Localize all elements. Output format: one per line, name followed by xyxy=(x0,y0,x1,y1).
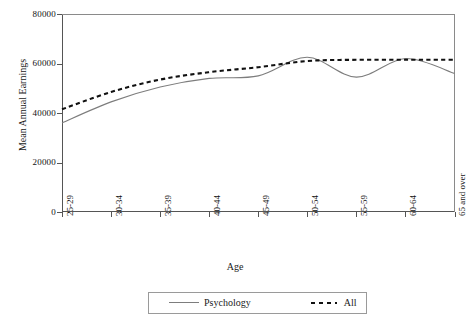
legend-swatch-dashed-icon xyxy=(309,299,339,307)
legend-label-all: All xyxy=(344,298,357,308)
x-axis-tick-label: 60-64 xyxy=(409,195,418,216)
x-axis-tick-mark xyxy=(455,212,456,217)
y-axis-tick-mark xyxy=(57,163,62,164)
x-axis-tick-label: 30-34 xyxy=(115,195,124,216)
x-axis-tick-label: 55-59 xyxy=(360,195,369,216)
y-axis-tick-mark xyxy=(57,14,62,15)
x-axis-tick-mark xyxy=(209,212,210,217)
y-axis-tick-label: 80000 xyxy=(0,10,56,19)
y-axis-tick-mark xyxy=(57,64,62,65)
y-axis-tick-label: 40000 xyxy=(0,109,56,118)
x-axis-tick-label: 65 and over xyxy=(458,174,467,217)
x-axis-tick-label: 35-39 xyxy=(164,195,173,216)
plot-right-border xyxy=(454,14,455,212)
y-axis-tick-mark xyxy=(57,113,62,114)
x-axis-tick-label: 25-29 xyxy=(66,195,75,216)
x-axis-tick-mark xyxy=(307,212,308,217)
x-axis-tick-mark xyxy=(258,212,259,217)
x-axis-tick-mark xyxy=(405,212,406,217)
x-axis-tick-mark xyxy=(111,212,112,217)
legend-item-all: All xyxy=(309,298,357,308)
x-axis-tick-mark xyxy=(160,212,161,217)
y-axis-tick-label: 60000 xyxy=(0,59,56,68)
legend-item-psychology: Psychology xyxy=(169,298,251,308)
x-axis-tick-label: 40-44 xyxy=(213,195,222,216)
chart-legend: Psychology All xyxy=(148,292,367,314)
plot-area xyxy=(62,14,455,212)
x-axis-tick-label: 50-54 xyxy=(311,195,320,216)
x-axis-title: Age xyxy=(0,262,470,272)
x-axis-tick-mark xyxy=(62,212,63,217)
legend-label-psychology: Psychology xyxy=(204,298,251,308)
chart-container: Mean Annual Earnings 0200004000060000800… xyxy=(0,0,470,323)
y-axis-tick-label: 20000 xyxy=(0,158,56,167)
x-axis-tick-mark xyxy=(356,212,357,217)
x-axis-tick-label: 45-49 xyxy=(262,195,271,216)
plot-top-border xyxy=(62,14,455,15)
legend-swatch-solid-icon xyxy=(169,299,199,307)
y-axis-tick-label: 0 xyxy=(0,208,56,217)
